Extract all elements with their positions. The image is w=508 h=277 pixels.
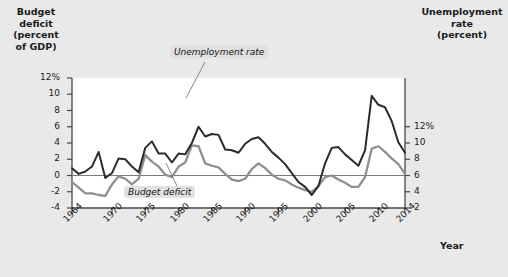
budget-deficit-annotation: Budget deficit bbox=[124, 186, 195, 198]
unemployment-rate-annotation: Unemployment rate bbox=[170, 46, 268, 58]
y-axis-tick-label: 2 bbox=[30, 153, 60, 163]
y2-axis-tick-label: 10 bbox=[414, 137, 444, 147]
y-axis-tick-label: 8 bbox=[30, 105, 60, 115]
y-axis-tick-label: 12% bbox=[30, 72, 60, 82]
y2-axis-tick-label: 6 bbox=[414, 170, 444, 180]
y-axis-tick-label: 10 bbox=[30, 88, 60, 98]
y-axis-tick-label: 6 bbox=[30, 121, 60, 131]
chart-figure: Budget deficit (percent of GDP) Unemploy… bbox=[0, 0, 508, 277]
y2-axis-tick-label: 4 bbox=[414, 186, 444, 196]
y2-axis-tick-label: 8 bbox=[414, 153, 444, 163]
y2-axis-tick-label: 2 bbox=[414, 202, 444, 212]
y-axis-tick-label: -2 bbox=[30, 186, 60, 196]
y-axis-tick-label: 0 bbox=[30, 170, 60, 180]
y2-axis-tick-label: 12% bbox=[414, 121, 444, 131]
y-axis-tick-label: 4 bbox=[30, 137, 60, 147]
y-axis-tick-label: -4 bbox=[30, 202, 60, 212]
